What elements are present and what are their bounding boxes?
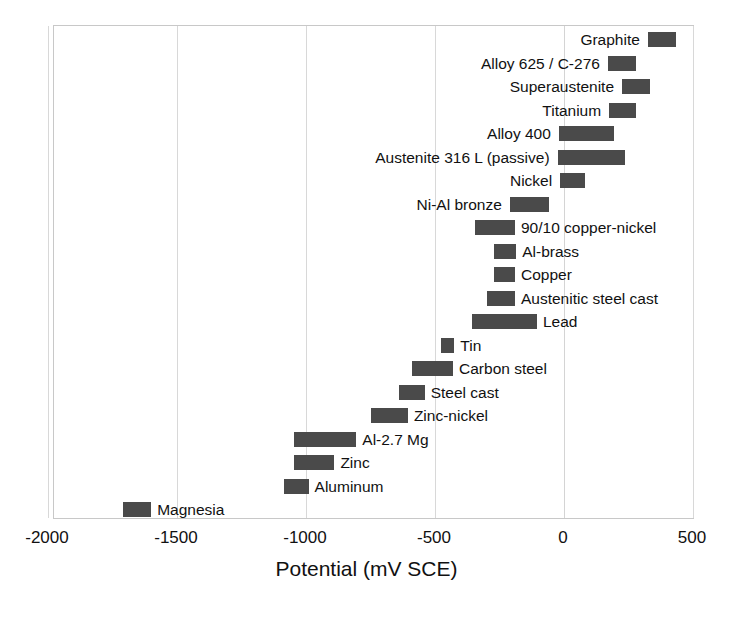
bar-row: Alloy 625 / C-276 (54, 52, 693, 76)
bar (648, 32, 676, 47)
bar-row: Lead (54, 310, 693, 334)
bar (475, 220, 515, 235)
bar-row: 90/10 copper-nickel (54, 216, 693, 240)
bar (294, 455, 334, 470)
bar-row: Steel cast (54, 381, 693, 405)
bar (558, 150, 625, 165)
bar (399, 385, 425, 400)
x-tick-label: 500 (678, 527, 706, 549)
bar-label: Magnesia (157, 500, 224, 519)
bar-label: Austenitic steel cast (521, 289, 658, 308)
bar-row: Al-brass (54, 240, 693, 264)
bar-label: Austenite 316 L (passive) (375, 148, 549, 167)
bar-row: Carbon steel (54, 357, 693, 381)
gridline--2000 (48, 26, 49, 518)
x-tick-label: -1500 (154, 527, 197, 549)
galvanic-series-chart: GraphiteAlloy 625 / C-276SuperausteniteT… (0, 0, 733, 633)
bar-label: Zinc (340, 453, 369, 472)
bar (371, 408, 408, 423)
bar-row: Zinc (54, 451, 693, 475)
bar (494, 267, 515, 282)
x-axis-tick-labels: -2000-1500-1000-5000500 (0, 527, 733, 551)
bar-label: Steel cast (431, 383, 499, 402)
bar (560, 173, 585, 188)
bar-row: Al-2.7 Mg (54, 428, 693, 452)
bar (294, 432, 356, 447)
bar-row: Titanium (54, 99, 693, 123)
bar-label: Superaustenite (510, 77, 614, 96)
bar-label: Ni-Al bronze (417, 195, 502, 214)
bar-label: Nickel (510, 171, 552, 190)
bar (441, 338, 454, 353)
bar (608, 56, 636, 71)
bar-label: Al-2.7 Mg (362, 430, 428, 449)
bar (472, 314, 537, 329)
bar-row: Zinc-nickel (54, 404, 693, 428)
bar-label: Al-brass (522, 242, 579, 261)
bar (412, 361, 453, 376)
bar-row: Nickel (54, 169, 693, 193)
x-axis-title: Potential (mV SCE) (0, 556, 733, 582)
x-tick-label: -500 (417, 527, 451, 549)
bar (494, 244, 516, 259)
x-tick-label: -1000 (283, 527, 326, 549)
bar-row: Copper (54, 263, 693, 287)
gridline-500 (693, 26, 694, 518)
bar-label: Carbon steel (459, 359, 547, 378)
plot-area: GraphiteAlloy 625 / C-276SuperausteniteT… (53, 25, 694, 519)
bar-label: Copper (521, 265, 572, 284)
bar-row: Alloy 400 (54, 122, 693, 146)
bar (609, 103, 636, 118)
bar-row: Aluminum (54, 475, 693, 499)
bar (284, 479, 309, 494)
bar-row: Graphite (54, 28, 693, 52)
bar-row: Austenite 316 L (passive) (54, 146, 693, 170)
bar-label: Lead (543, 312, 577, 331)
bar-label: Aluminum (315, 477, 384, 496)
bar (123, 502, 151, 517)
bar-label: Tin (460, 336, 481, 355)
bar-row: Austenitic steel cast (54, 287, 693, 311)
bar-label: Titanium (542, 101, 601, 120)
bar-label: Alloy 400 (487, 124, 551, 143)
bar-row: Superaustenite (54, 75, 693, 99)
bar-row: Magnesia (54, 498, 693, 522)
bar (622, 79, 650, 94)
bar (487, 291, 515, 306)
bar-label: 90/10 copper-nickel (521, 218, 656, 237)
bar-row: Ni-Al bronze (54, 193, 693, 217)
x-tick-label: -2000 (25, 527, 68, 549)
bar-label: Graphite (580, 30, 639, 49)
x-tick-label: 0 (558, 527, 567, 549)
bar (510, 197, 549, 212)
bar-label: Alloy 625 / C-276 (481, 54, 600, 73)
bar-row: Tin (54, 334, 693, 358)
bar (559, 126, 614, 141)
bar-label: Zinc-nickel (414, 406, 488, 425)
